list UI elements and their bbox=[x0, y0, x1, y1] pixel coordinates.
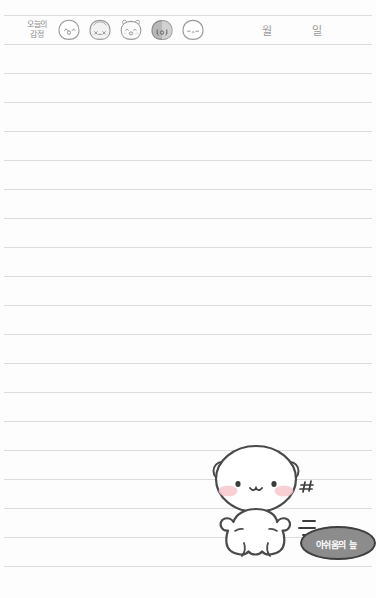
face-calm-icon[interactable] bbox=[180, 18, 206, 42]
rule-line bbox=[4, 421, 372, 422]
date-fields: 월 일 bbox=[262, 15, 322, 44]
rule-line bbox=[4, 363, 372, 364]
rule-line bbox=[4, 218, 372, 219]
rule-line bbox=[4, 131, 372, 132]
rule-line bbox=[4, 189, 372, 190]
rule-line bbox=[4, 276, 372, 277]
face-happy-icon[interactable] bbox=[56, 18, 82, 42]
rule-line bbox=[4, 160, 372, 161]
mood-face-row bbox=[56, 18, 206, 42]
face-excited-icon[interactable] bbox=[118, 18, 144, 42]
rule-line bbox=[4, 73, 372, 74]
rule-line bbox=[4, 102, 372, 103]
rule-line bbox=[4, 334, 372, 335]
notebook-page: 오늘의 감정 bbox=[0, 0, 376, 598]
month-unit-label[interactable]: 월 bbox=[262, 22, 272, 38]
face-sleepy-icon[interactable] bbox=[87, 18, 113, 42]
rule-line bbox=[4, 305, 372, 306]
face-sad-icon[interactable] bbox=[149, 18, 175, 42]
mood-header: 오늘의 감정 bbox=[0, 15, 376, 44]
rule-line bbox=[4, 392, 372, 393]
mood-label: 오늘의 감정 bbox=[20, 20, 54, 40]
day-unit-label[interactable]: 일 bbox=[312, 22, 322, 38]
bear-illustration bbox=[195, 443, 376, 578]
rule-line bbox=[4, 44, 372, 45]
rule-line bbox=[4, 247, 372, 248]
